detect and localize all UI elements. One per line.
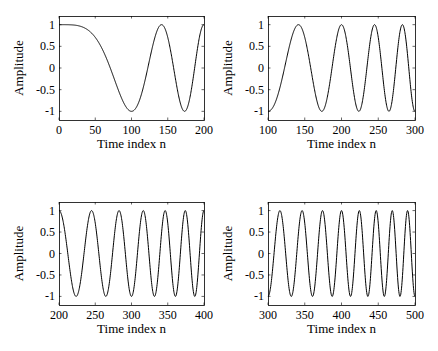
x-tick-label: 300: [406, 123, 424, 137]
y-axis-label: Amplitude: [220, 225, 235, 281]
signal-line: [59, 211, 204, 297]
x-axis-label: Time index n: [307, 321, 376, 336]
x-tick-label: 150: [296, 123, 314, 137]
figure: 05010015020010.50-0.5-1Time index nAmpli…: [0, 0, 438, 351]
y-axis-label: Amplitude: [220, 40, 235, 96]
axes-box: [269, 17, 416, 121]
x-tick-label: 200: [50, 308, 68, 322]
y-tick-label: 0: [49, 247, 55, 261]
y-tick-label: 0: [258, 247, 264, 261]
signal-line: [268, 25, 415, 112]
y-tick-label: -1: [254, 289, 264, 303]
x-tick-label: 300: [123, 308, 141, 322]
x-tick-label: 200: [195, 123, 213, 137]
x-tick-label: 400: [333, 308, 351, 322]
axes-box: [60, 17, 205, 121]
x-axis-label: Time index n: [307, 136, 376, 151]
x-tick-label: 50: [89, 123, 101, 137]
y-tick-label: 0: [49, 61, 55, 75]
y-axis-label: Amplitude: [11, 40, 26, 96]
x-tick-label: 250: [369, 123, 387, 137]
y-tick-label: -1: [45, 104, 55, 118]
y-tick-label: -1: [254, 104, 264, 118]
y-tick-label: 0.5: [249, 225, 264, 239]
x-tick-label: 100: [259, 123, 277, 137]
y-tick-label: 1: [49, 204, 55, 218]
y-tick-label: -0.5: [245, 83, 264, 97]
x-tick-label: 450: [369, 308, 387, 322]
signal-line: [268, 211, 415, 297]
y-tick-label: -1: [45, 289, 55, 303]
y-tick-label: -0.5: [36, 268, 55, 282]
y-tick-label: -0.5: [245, 268, 264, 282]
subplot-top-right: 10015020025030010.50-0.5-1Time index nAm…: [220, 16, 424, 151]
x-tick-label: 0: [56, 123, 62, 137]
y-tick-label: 0.5: [40, 39, 55, 53]
y-tick-label: 1: [49, 18, 55, 32]
x-axis-label: Time index n: [97, 136, 166, 151]
subplot-top-left: 05010015020010.50-0.5-1Time index nAmpli…: [11, 16, 213, 151]
y-tick-label: -0.5: [36, 83, 55, 97]
x-tick-label: 500: [406, 308, 424, 322]
x-tick-label: 200: [333, 123, 351, 137]
x-tick-label: 250: [86, 308, 104, 322]
subplot-bottom-left: 20025030035040010.50-0.5-1Time index nAm…: [11, 202, 213, 336]
x-axis-label: Time index n: [97, 321, 166, 336]
y-tick-label: 1: [258, 18, 264, 32]
x-tick-label: 300: [259, 308, 277, 322]
subplot-bottom-right: 30035040045050010.50-0.5-1Time index nAm…: [220, 202, 424, 336]
y-tick-label: 0.5: [40, 225, 55, 239]
x-tick-label: 400: [195, 308, 213, 322]
signal-line: [59, 25, 204, 112]
y-tick-label: 0.5: [249, 39, 264, 53]
x-tick-label: 350: [159, 308, 177, 322]
x-tick-label: 350: [296, 308, 314, 322]
x-tick-label: 100: [123, 123, 141, 137]
axes-box: [60, 203, 205, 306]
y-tick-label: 1: [258, 204, 264, 218]
y-tick-label: 0: [258, 61, 264, 75]
x-tick-label: 150: [159, 123, 177, 137]
y-axis-label: Amplitude: [11, 225, 26, 281]
